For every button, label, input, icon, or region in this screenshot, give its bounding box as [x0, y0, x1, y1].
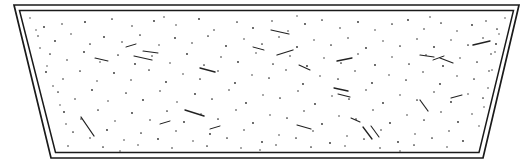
speckle-dot	[194, 93, 196, 95]
speckle-dot	[243, 38, 245, 40]
speckle-dot	[211, 98, 213, 100]
vessel-interior-fill	[20, 11, 514, 153]
speckle-dot	[295, 137, 297, 139]
speckle-dot	[103, 36, 105, 38]
speckle-dot	[175, 130, 177, 132]
speckle-dot	[382, 40, 384, 42]
speckle-dot	[348, 98, 350, 100]
speckle-dot	[329, 142, 331, 144]
speckle-dot	[106, 129, 108, 131]
speckle-dot	[198, 18, 200, 20]
speckle-dot	[391, 56, 393, 58]
speckle-dot	[176, 101, 178, 103]
speckle-dot	[287, 30, 289, 32]
speckle-dot	[491, 69, 492, 70]
speckle-dot	[478, 125, 479, 126]
speckle-dot	[67, 145, 69, 147]
speckle-dot	[297, 90, 299, 92]
speckle-dot	[171, 147, 173, 149]
speckle-dot	[159, 90, 161, 92]
speckle-dot	[319, 75, 321, 77]
speckle-dot	[278, 134, 280, 136]
speckle-dot	[488, 70, 490, 72]
speckle-dot	[347, 37, 349, 39]
speckle-dot	[365, 47, 367, 49]
speckle-dot	[467, 93, 469, 95]
speckle-dot	[134, 63, 136, 65]
speckle-dot	[163, 16, 165, 18]
speckle-dot	[262, 94, 264, 96]
speckle-dot	[456, 75, 458, 77]
speckle-dot	[213, 29, 215, 31]
speckle-dot	[39, 47, 41, 49]
speckle-dot	[269, 114, 271, 116]
speckle-dot	[504, 17, 505, 18]
speckle-dot	[416, 99, 418, 101]
speckle-dot	[153, 20, 155, 22]
speckle-dot	[272, 63, 274, 65]
speckle-dot	[206, 145, 208, 147]
speckle-dot	[207, 35, 209, 37]
speckle-dot	[471, 113, 473, 115]
speckle-dot	[459, 57, 461, 59]
speckle-dot	[91, 89, 93, 91]
speckle-dot	[275, 144, 277, 146]
speckle-dot	[448, 130, 450, 132]
speckle-dot	[83, 51, 85, 53]
speckle-dot	[117, 54, 119, 56]
speckle-dot	[399, 150, 400, 151]
speckle-dot	[35, 29, 36, 30]
speckle-dot	[462, 140, 464, 142]
speckle-dot	[199, 78, 201, 80]
speckle-dot	[467, 44, 469, 46]
speckle-dot	[423, 119, 425, 121]
speckle-dot	[391, 23, 393, 25]
speckle-dot	[372, 109, 374, 111]
speckle-dot	[130, 79, 132, 81]
speckle-dot	[70, 33, 72, 35]
speckle-dot	[346, 135, 348, 137]
speckle-dot	[306, 65, 308, 67]
speckle-dot	[456, 30, 458, 32]
speckle-dot	[483, 106, 484, 107]
speckle-dot	[217, 118, 219, 120]
speckle-dot	[389, 122, 391, 124]
speckle-dot	[251, 74, 253, 76]
speckle-dot	[54, 40, 56, 42]
speckle-dot	[446, 146, 448, 148]
speckle-dot	[310, 146, 312, 148]
speckle-dot	[261, 141, 263, 143]
speckle-dot	[482, 37, 484, 39]
speckle-dot	[65, 123, 67, 125]
speckle-dot	[337, 78, 339, 80]
speckle-dot	[498, 33, 499, 34]
speckle-dot	[59, 104, 60, 105]
speckle-dot	[175, 24, 177, 26]
speckle-dot	[433, 91, 435, 93]
speckle-dot	[234, 82, 236, 84]
speckle-dot	[482, 97, 484, 99]
speckle-dot	[440, 111, 442, 113]
speckle-dot	[495, 43, 497, 45]
speckle-dot	[496, 28, 498, 30]
speckle-dot	[191, 42, 193, 44]
speckle-dot	[494, 51, 496, 53]
speckle-dot	[354, 70, 356, 72]
speckle-dot	[137, 144, 139, 146]
speckle-dot	[148, 69, 150, 71]
speckle-dot	[416, 38, 418, 40]
speckle-dot	[405, 79, 407, 81]
speckle-dot	[192, 140, 194, 142]
speckle-dot	[113, 72, 115, 74]
speckle-dot	[278, 36, 280, 38]
speckle-dot	[174, 37, 176, 39]
speckle-dot	[114, 120, 116, 122]
speckle-dot	[338, 115, 340, 117]
speckle-dot	[97, 109, 99, 111]
speckle-dot	[228, 89, 230, 91]
speckle-dot	[119, 150, 120, 151]
speckle-dot	[321, 19, 323, 21]
speckle-dot	[303, 110, 305, 112]
speckle-dot	[407, 19, 409, 21]
speckle-dot	[240, 147, 242, 149]
